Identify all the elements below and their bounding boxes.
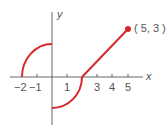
- tick-label-m1: −1: [29, 82, 42, 93]
- y-axis-label: y: [57, 9, 63, 20]
- x-axis-label: x: [146, 71, 152, 82]
- tick-label-5: 5: [125, 82, 131, 93]
- endpoint-dot: [125, 26, 131, 32]
- tick-label-1: 1: [64, 82, 70, 93]
- tick-label-3: 3: [94, 82, 100, 93]
- line-segment: [82, 29, 128, 77]
- arc-left: [22, 44, 52, 77]
- tick-label-4: 4: [109, 82, 115, 93]
- point-label: ( 5, 3 ): [134, 23, 166, 34]
- tick-label-m2: −2: [14, 82, 27, 93]
- function-graph: [0, 0, 168, 132]
